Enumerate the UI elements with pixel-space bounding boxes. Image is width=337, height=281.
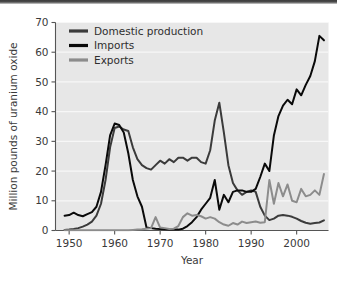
legend-item-imports-label: Imports: [94, 39, 134, 51]
y-axis-ticks-group: 010203040506070: [35, 16, 55, 236]
x-tick-label: 1990: [238, 237, 265, 249]
y-axis-label: Million pounds of uranium oxide: [7, 42, 19, 210]
x-axis-label: Year: [180, 254, 204, 266]
legend-item-domestic-production-label: Domestic production: [94, 25, 203, 37]
y-tick-label: 10: [35, 194, 48, 206]
x-tick-label: 1950: [56, 237, 83, 249]
y-tick-label: 0: [42, 224, 49, 236]
y-tick-label: 40: [35, 105, 48, 117]
plot-container: 010203040506070 195019601970198019902000…: [0, 0, 337, 281]
y-tick-label: 60: [35, 46, 48, 58]
x-axis-ticks-group: 195019601970198019902000: [56, 231, 310, 249]
y-tick-label: 20: [35, 165, 48, 177]
x-tick-label: 1980: [192, 237, 219, 249]
uranium-line-chart: 010203040506070 195019601970198019902000…: [0, 0, 337, 281]
y-tick-label: 30: [35, 135, 48, 147]
x-tick-label: 1960: [101, 237, 128, 249]
x-tick-label: 2000: [283, 237, 310, 249]
legend-item-exports-label: Exports: [94, 54, 134, 66]
x-tick-label: 1970: [147, 237, 174, 249]
chart-figure: 010203040506070 195019601970198019902000…: [0, 0, 337, 281]
y-tick-label: 70: [35, 16, 48, 28]
y-tick-label: 50: [35, 76, 48, 88]
